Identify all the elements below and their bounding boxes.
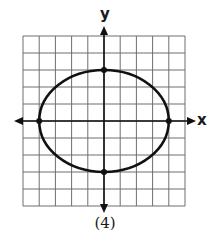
vertex-point (166, 118, 172, 124)
figure-caption: (4) (0, 214, 210, 232)
vertex-point (101, 67, 107, 73)
x-axis-arrow-right-icon (187, 117, 196, 125)
x-axis-label: x (197, 113, 207, 128)
vertex-point (101, 169, 107, 175)
coordinate-plane (0, 0, 210, 239)
x-axis-arrow-left-icon (14, 117, 23, 125)
y-axis-arrow-up-icon (100, 26, 108, 35)
y-axis-arrow-down-icon (100, 204, 108, 213)
vertex-point (36, 118, 42, 124)
y-axis-label: y (100, 7, 110, 22)
